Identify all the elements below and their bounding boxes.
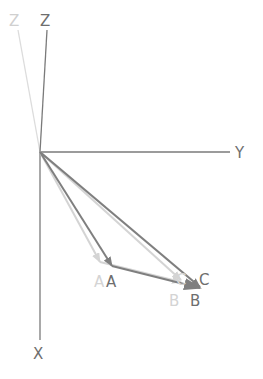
point-b-label: B (190, 292, 200, 310)
point-c-previous-label: C (176, 271, 186, 289)
y-axis-label: Y (234, 144, 245, 162)
z-axis-label: Z (40, 12, 50, 30)
vectors-current (40, 152, 200, 288)
z-axis-ghost (18, 30, 40, 152)
point-a-previous-label: A (94, 273, 105, 291)
point-a-label: A (106, 273, 117, 291)
z-axis-ghost-label: Z (9, 12, 19, 30)
point-c-label: C (199, 271, 209, 289)
z-axis (40, 30, 47, 152)
x-axis-label: X (33, 345, 43, 363)
vector-diagram: Z Z Y X A B C A B C (0, 0, 263, 379)
point-b-previous-label: B (169, 292, 179, 310)
